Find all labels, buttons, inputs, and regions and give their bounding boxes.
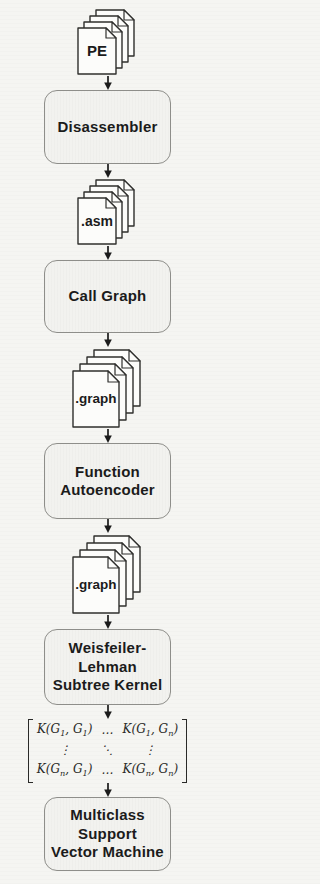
node-label: Function Autoencoder	[60, 463, 155, 500]
node-label: Disassembler	[58, 118, 158, 137]
down-arrow-icon	[102, 164, 114, 178]
asm-files-stack-icon: .asm	[76, 178, 140, 246]
node-label: Weisfeiler- Lehman Subtree Kernel	[53, 639, 163, 695]
down-arrow-icon	[102, 519, 114, 533]
graph-files-stack-icon-1: .graph	[71, 347, 145, 429]
matrix-cell: K(Gn, G1)	[37, 761, 93, 780]
matrix-right-bracket-icon	[182, 719, 187, 783]
down-arrow-icon	[102, 783, 114, 797]
call-graph-node: Call Graph	[44, 260, 171, 333]
node-label: Call Graph	[69, 287, 147, 306]
down-arrow-icon	[102, 76, 114, 90]
stack-label: .graph	[75, 391, 116, 406]
matrix-cell: K(Gn, Gn)	[122, 761, 178, 780]
matrix-cell: K(G1, Gn)	[123, 721, 179, 740]
matrix-cell: ⋱	[101, 742, 113, 759]
pipeline-diagram: PE Disassembler .asm Call Graph .graph	[0, 0, 215, 884]
down-arrow-icon	[102, 615, 114, 629]
kernel-matrix: K(G1, G1)…K(G1, Gn)⋮⋱⋮K(Gn, G1)…K(Gn, Gn…	[28, 719, 187, 783]
stack-label: .graph	[75, 577, 116, 592]
kernel-matrix-grid: K(G1, G1)…K(G1, Gn)⋮⋱⋮K(Gn, G1)…K(Gn, Gn…	[33, 719, 182, 783]
matrix-cell: …	[101, 722, 113, 739]
stack-label: PE	[86, 42, 106, 59]
matrix-cell: K(G1, G1)	[37, 721, 93, 740]
down-arrow-icon	[102, 705, 114, 719]
wl-subtree-kernel-node: Weisfeiler- Lehman Subtree Kernel	[44, 629, 171, 705]
down-arrow-icon	[102, 333, 114, 347]
matrix-cell: …	[101, 762, 113, 779]
stack-label: .asm	[81, 213, 113, 229]
function-autoencoder-node: Function Autoencoder	[44, 443, 171, 519]
matrix-cell: ⋮	[144, 742, 156, 759]
node-label: Multiclass Support Vector Machine	[51, 806, 164, 862]
svm-node: Multiclass Support Vector Machine	[44, 797, 171, 871]
pe-files-stack-icon: PE	[76, 8, 140, 76]
down-arrow-icon	[102, 429, 114, 443]
down-arrow-icon	[102, 246, 114, 260]
disassembler-node: Disassembler	[44, 90, 171, 164]
matrix-cell: ⋮	[59, 742, 71, 759]
graph-files-stack-icon-2: .graph	[71, 533, 145, 615]
